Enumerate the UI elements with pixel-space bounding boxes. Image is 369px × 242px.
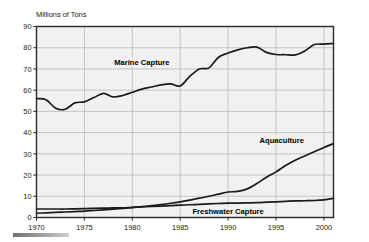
y-tick-label: 30	[23, 150, 31, 159]
y-tick-label: 0	[27, 213, 31, 222]
y-tick-label: 10	[23, 192, 31, 201]
series-label-2: Freshwater Capture	[192, 207, 263, 216]
x-tick-label: 2000	[316, 223, 332, 232]
x-tick-label: 1985	[172, 223, 188, 232]
y-tick-label: 50	[23, 107, 31, 116]
series-label-1: Aquaculture	[260, 136, 304, 145]
series-label-0: Marine Capture	[114, 58, 169, 67]
y-tick-label: 90	[23, 22, 31, 31]
y-tick-label: 70	[23, 65, 31, 74]
x-tick-label: 1975	[76, 223, 92, 232]
y-tick-label: 60	[23, 86, 31, 95]
y-axis-title: Millions of Tons	[36, 10, 87, 19]
x-tick-label: 1995	[268, 223, 284, 232]
y-tick-label: 20	[23, 171, 31, 180]
line-chart: Millions of Tons 0102030405060708090 197…	[0, 0, 369, 242]
x-tick-label: 1980	[124, 223, 140, 232]
y-tick-label: 40	[23, 128, 31, 137]
chart-figure: Millions of Tons 0102030405060708090 197…	[0, 0, 369, 242]
x-tick-label: 1990	[220, 223, 236, 232]
footer-rule	[13, 233, 69, 237]
x-tick-label: 1970	[28, 223, 44, 232]
y-tick-label: 80	[23, 43, 31, 52]
